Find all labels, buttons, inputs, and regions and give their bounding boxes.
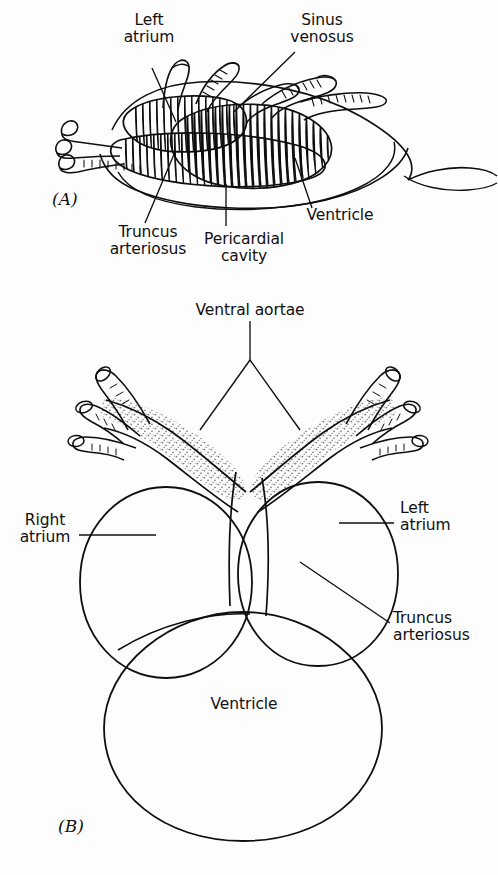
label-left-atrium-b: Left atrium	[400, 500, 490, 535]
label-ventricle-b: Ventricle	[198, 696, 290, 713]
label-truncus-arteriosus-b: Truncus arteriosus	[393, 610, 497, 645]
label-ventral-aortae-b: Ventral aortae	[183, 302, 317, 319]
label-truncus-arteriosus-a: Truncus arteriosus	[98, 224, 198, 259]
anatomical-artwork	[0, 0, 498, 875]
label-left-atrium-a: Left atrium	[106, 12, 192, 47]
label-right-atrium-b: Right atrium	[12, 512, 78, 547]
label-ventricle-a: Ventricle	[297, 207, 383, 224]
panel-b-marker: (B)	[58, 816, 84, 836]
label-sinus-venosus-a: Sinus venosus	[272, 12, 372, 47]
heart-development-figure: Left atrium Sinus venosus Truncus arteri…	[0, 0, 498, 875]
label-pericardial-cavity-a: Pericardial cavity	[188, 231, 300, 266]
panel-a-marker: (A)	[52, 189, 78, 209]
ventricle-b	[0, 0, 498, 875]
panel-b-artwork	[0, 0, 498, 875]
